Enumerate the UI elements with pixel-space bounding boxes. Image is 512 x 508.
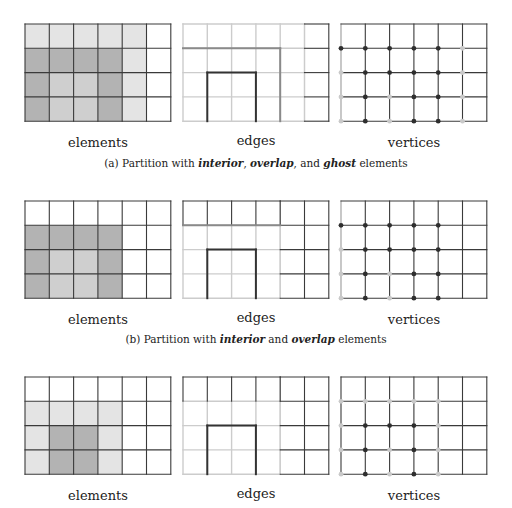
element-cell-ghost [25, 24, 49, 48]
element-cell-interior [49, 426, 73, 450]
element-cell-none [147, 48, 171, 72]
element-cell-overlap [74, 274, 98, 298]
element-cell-ghost [49, 401, 73, 425]
vertex-dot-light [436, 472, 441, 477]
element-cell-none [122, 377, 146, 401]
element-cell-interior [49, 450, 73, 474]
vertex-dot-dark [363, 472, 368, 477]
element-cell-none [147, 274, 171, 298]
element-cell-interior [98, 97, 122, 121]
vertex-dot-dark [436, 70, 441, 75]
element-cell-interior [25, 225, 49, 249]
vertex-dot-dark [436, 223, 441, 228]
vertex-dot-light [387, 399, 392, 404]
vertex-dot-dark [387, 70, 392, 75]
element-cell-ghost [25, 426, 49, 450]
element-cell-ghost [49, 24, 73, 48]
vertex-dot-light [436, 423, 441, 428]
element-cell-overlap [49, 274, 73, 298]
vertex-dot-dark [363, 70, 368, 75]
vertex-dot-dark [412, 119, 417, 124]
element-cell-interior [49, 225, 73, 249]
element-cell-none [122, 250, 146, 274]
label-edges-b: edges [181, 310, 331, 325]
element-cell-none [98, 377, 122, 401]
caption-a: (a) Partition with interior, overlap, an… [0, 157, 512, 169]
element-cell-ghost [98, 450, 122, 474]
vertex-dot-dark [412, 95, 417, 100]
element-cell-none [147, 450, 171, 474]
vertex-dot-dark [363, 119, 368, 124]
element-cell-interior [98, 250, 122, 274]
vertex-dot-light [436, 399, 441, 404]
element-cell-interior [25, 274, 49, 298]
element-cell-interior [74, 48, 98, 72]
caption-b: (b) Partition with interior and overlap … [0, 333, 512, 345]
vertex-dot-dark [363, 448, 368, 453]
caption-b-prefix: (b) Partition with [125, 333, 219, 345]
element-cell-none [98, 201, 122, 225]
element-cell-none [74, 201, 98, 225]
caption-a-term-overlap: overlap [250, 157, 293, 169]
vertex-dot-light [339, 296, 344, 301]
element-cell-interior [25, 73, 49, 97]
vertex-dot-light [387, 448, 392, 453]
caption-a-suffix: elements [356, 157, 408, 169]
vertex-dot-dark [412, 70, 417, 75]
caption-b-term-overlap: overlap [291, 333, 334, 345]
vertex-dot-light [339, 472, 344, 477]
caption-b-sep1: and [265, 333, 291, 345]
vertex-dot-dark [387, 46, 392, 51]
vertex-dot-light [339, 448, 344, 453]
element-cell-none [147, 73, 171, 97]
element-cell-interior [25, 97, 49, 121]
element-cell-ghost [74, 24, 98, 48]
vertex-dot-dark [363, 423, 368, 428]
element-cell-none [74, 377, 98, 401]
label-elements-b: elements [23, 312, 173, 327]
element-cell-overlap [49, 97, 73, 121]
label-vertices-b: vertices [339, 312, 489, 327]
vertex-dot-dark [339, 46, 344, 51]
vertex-dot-dark [363, 223, 368, 228]
element-cell-interior [49, 48, 73, 72]
label-vertices-c: vertices [339, 488, 489, 503]
element-cell-none [147, 426, 171, 450]
vertex-dot-dark [387, 247, 392, 252]
element-cell-interior [98, 274, 122, 298]
vertex-dot-light [387, 296, 392, 301]
vertex-dot-light [460, 119, 465, 124]
element-cell-interior [98, 48, 122, 72]
vertex-dot-light [339, 247, 344, 252]
element-cell-interior [98, 73, 122, 97]
vertex-dot-light [339, 95, 344, 100]
element-cell-ghost [25, 401, 49, 425]
partition-figure [0, 0, 512, 508]
vertex-dot-dark [412, 272, 417, 277]
vertex-dot-dark [387, 423, 392, 428]
vertex-dot-dark [412, 423, 417, 428]
label-elements-a: elements [23, 135, 173, 150]
vertex-dot-light [339, 119, 344, 124]
element-cell-none [25, 377, 49, 401]
element-cell-ghost [98, 24, 122, 48]
vertex-dot-dark [412, 247, 417, 252]
vertex-dot-light [339, 272, 344, 277]
vertex-dot-light [339, 70, 344, 75]
caption-b-suffix: elements [335, 333, 387, 345]
label-edges-c: edges [181, 486, 331, 501]
element-cell-none [122, 450, 146, 474]
vertex-dot-light [412, 399, 417, 404]
vertex-dot-dark [363, 296, 368, 301]
caption-a-term-interior: interior [198, 157, 243, 169]
element-cell-overlap [49, 73, 73, 97]
element-cell-ghost [25, 450, 49, 474]
vertex-dot-dark [436, 272, 441, 277]
vertex-dot-light [339, 423, 344, 428]
element-cell-none [147, 250, 171, 274]
vertex-dot-dark [412, 223, 417, 228]
vertex-dot-dark [363, 46, 368, 51]
vertex-dot-light [436, 448, 441, 453]
element-cell-ghost [98, 401, 122, 425]
element-cell-overlap [49, 250, 73, 274]
